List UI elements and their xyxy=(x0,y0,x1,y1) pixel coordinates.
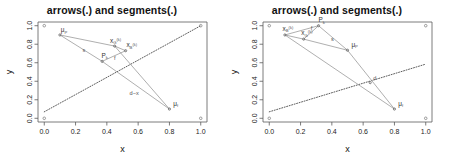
y-tick-label: 0.6 xyxy=(26,58,33,68)
x-axis-label: x xyxy=(120,144,125,154)
data-point-d_point xyxy=(369,82,371,84)
annotation: f xyxy=(114,55,116,61)
svg-text:xG(k): xG(k) xyxy=(110,37,122,46)
corner-point xyxy=(424,24,427,27)
x-tick-label: 0.0 xyxy=(264,128,274,135)
figure-canvas: arrows(.) and segments(.) 0.00.20.40.60.… xyxy=(0,0,449,162)
segment-x_B-to-mu_f xyxy=(285,35,395,109)
plot-panel-left: arrows(.) and segments(.) 0.00.20.40.60.… xyxy=(0,0,224,162)
annotation: s xyxy=(331,36,334,42)
y-axis-label: y xyxy=(4,69,14,74)
x-tick-label: 0.6 xyxy=(358,128,368,135)
svg-text:s: s xyxy=(331,36,334,42)
svg-text:s: s xyxy=(83,47,86,53)
corner-point xyxy=(268,117,271,120)
annotation: d xyxy=(373,75,376,81)
annotation: μP xyxy=(351,41,358,49)
plot-svg-right: 0.00.20.40.60.81.00.00.20.40.60.81.0xyxB… xyxy=(225,0,449,162)
svg-text:μf: μf xyxy=(398,100,404,108)
y-tick-label: 0.4 xyxy=(26,76,33,86)
svg-text:xB(k): xB(k) xyxy=(283,25,294,34)
svg-text:xB(k): xB(k) xyxy=(126,41,137,50)
plot-panel-right: arrows(.) and segments(.) 0.00.20.40.60.… xyxy=(225,0,449,162)
x-axis-label: x xyxy=(345,144,350,154)
y-axis-label: y xyxy=(229,69,239,74)
svg-text:μf: μf xyxy=(173,100,179,108)
svg-text:d−x: d−x xyxy=(130,90,139,96)
corner-point xyxy=(424,117,427,120)
y-tick-label: 0.0 xyxy=(251,113,258,123)
annotation: Pk xyxy=(319,16,326,25)
y-tick-label: 0.2 xyxy=(251,95,258,105)
y-tick-label: 1.0 xyxy=(26,21,33,31)
svg-text:d: d xyxy=(373,75,376,81)
y-tick-label: 0.6 xyxy=(251,58,258,68)
svg-text:f: f xyxy=(114,55,116,61)
annotation: μf xyxy=(173,100,179,108)
annotation: s xyxy=(83,47,86,53)
corner-point xyxy=(43,24,46,27)
x-tick-label: 1.0 xyxy=(421,128,431,135)
x-tick-label: 1.0 xyxy=(196,128,206,135)
y-tick-label: 0.0 xyxy=(26,113,33,123)
dotted-diagonal xyxy=(44,26,200,112)
x-tick-label: 0.8 xyxy=(165,128,175,135)
annotation: xB(k) xyxy=(283,25,294,34)
annotation: xB(k) xyxy=(126,41,137,50)
annotation: xG(k) xyxy=(110,37,122,46)
y-tick-label: 0.8 xyxy=(251,39,258,49)
plot-svg-left: 0.00.20.40.60.81.00.00.20.40.60.81.0xyμP… xyxy=(0,0,224,162)
x-tick-label: 0.6 xyxy=(133,128,143,135)
annotation: μP xyxy=(61,26,68,34)
y-tick-label: 0.2 xyxy=(26,95,33,105)
svg-text:Pk: Pk xyxy=(101,52,108,61)
x-tick-label: 0.0 xyxy=(39,128,49,135)
segment-mu_P-to-mu_f xyxy=(348,50,395,109)
x-tick-label: 0.2 xyxy=(296,128,306,135)
x-tick-label: 0.8 xyxy=(390,128,400,135)
annotation: d−x xyxy=(130,90,139,96)
x-tick-label: 0.4 xyxy=(327,128,337,135)
corner-point xyxy=(199,117,202,120)
segment-P_k-to-mu_f xyxy=(102,61,169,109)
annotation: μf xyxy=(398,100,404,108)
x-tick-label: 0.4 xyxy=(102,128,112,135)
svg-text:μP: μP xyxy=(351,41,358,49)
y-tick-label: 1.0 xyxy=(251,21,258,31)
annotation: Pk xyxy=(101,52,108,61)
y-tick-label: 0.4 xyxy=(251,76,258,86)
corner-point xyxy=(43,117,46,120)
x-tick-label: 0.2 xyxy=(71,128,81,135)
segment-x_G-to-mu_f xyxy=(115,46,170,109)
corner-point xyxy=(268,24,271,27)
svg-text:Pk: Pk xyxy=(319,16,326,25)
svg-text:μP: μP xyxy=(61,26,68,34)
y-tick-label: 0.8 xyxy=(26,39,33,49)
